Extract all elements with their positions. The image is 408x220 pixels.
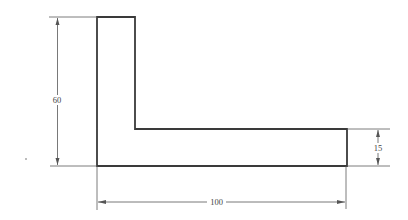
arrowhead-leg-up-icon bbox=[376, 130, 380, 137]
arrowhead-leg-down-icon bbox=[376, 158, 380, 165]
technical-drawing: 60 100 15 bbox=[0, 0, 408, 220]
arrowhead-down-icon bbox=[56, 158, 60, 165]
dimension-label-height: 60 bbox=[53, 95, 62, 105]
arrowhead-up-icon bbox=[56, 18, 60, 25]
dimension-label-leg: 15 bbox=[374, 143, 383, 153]
l-profile-outline bbox=[97, 17, 347, 166]
speck-mark bbox=[25, 158, 27, 160]
dimension-label-width: 100 bbox=[210, 197, 223, 207]
arrowhead-right-icon bbox=[337, 200, 345, 204]
arrowhead-left-icon bbox=[98, 200, 106, 204]
